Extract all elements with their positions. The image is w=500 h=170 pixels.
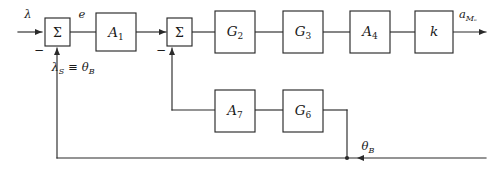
sign-sum1-negative: − <box>34 43 44 57</box>
signal-label-lambda-s-equiv-theta-b: λS≡θB <box>50 60 94 76</box>
arrowhead-into-sum2 <box>159 29 166 35</box>
block-diagram-container: Σ A1 Σ G2 G3 A4 k A7 G6 λ e aMₑ λS≡θB θB… <box>0 0 500 170</box>
arrowhead-outer-feedback <box>357 155 364 161</box>
block-sum1-label: Σ <box>53 25 62 40</box>
block-sum2-label: Σ <box>175 25 184 40</box>
arrowhead-into-sum1 <box>35 29 42 35</box>
signal-label-output-am: aMₑ <box>459 7 477 23</box>
junction-dot-theta-b <box>345 156 349 160</box>
arrowhead-output <box>479 29 486 35</box>
arrowhead-into-sum2-bottom <box>169 48 175 55</box>
signal-label-theta-b-rail: θB <box>362 139 375 155</box>
signal-label-lambda-input: λ <box>23 7 31 21</box>
signal-label-error-e: e <box>79 7 86 21</box>
block-k-label: k <box>430 23 438 39</box>
sign-sum2-negative: − <box>156 43 166 57</box>
arrowhead-into-sum1-bottom <box>54 48 60 55</box>
block-diagram-canvas: Σ A1 Σ G2 G3 A4 k A7 G6 λ e aMₑ λS≡θB θB… <box>0 0 500 170</box>
